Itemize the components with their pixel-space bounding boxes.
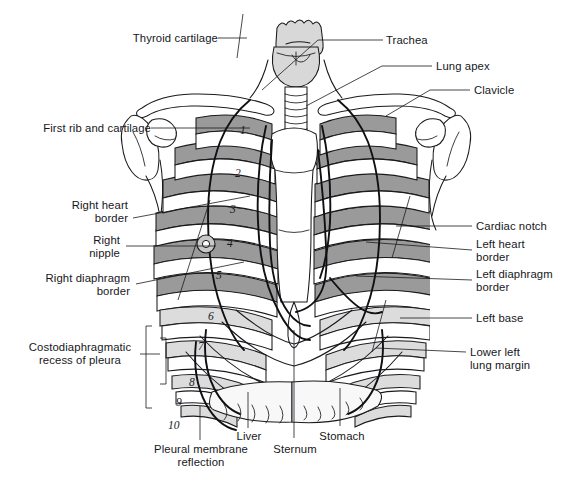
rib-number-9: 9 [176,396,182,408]
label-left-heart-border: Left heart border [476,238,564,263]
label-liver: Liver [228,430,270,443]
rib-number-5: 5 [216,269,222,281]
label-right-diaphragm-border: Right diaphragm border [8,272,130,297]
label-pleural-membrane-reflection: Pleural membrane reflection [140,443,262,468]
rib-number-8: 8 [189,376,195,388]
label-left-diaphragm-border: Left diaphragm border [476,268,564,293]
rib-number-3: 3 [230,203,236,215]
right-nipple-marker [197,235,215,253]
label-trachea: Trachea [386,34,476,47]
label-right-heart-border: Right heart border [18,199,128,224]
label-lower-left-lung-margin: Lower left lung margin [470,346,562,371]
label-lung-apex: Lung apex [436,60,536,73]
rib-number-7: 7 [198,340,204,352]
rib-number-4: 4 [227,237,233,249]
label-stomach: Stomach [313,430,371,443]
rib-number-1: 1 [240,124,246,136]
label-first-rib-and-cartilage: First rib and cartilage [6,122,151,135]
label-right-nipple: Right nipple [28,234,120,259]
label-left-base: Left base [476,312,556,325]
label-thyroid-cartilage: Thyroid cartilage [100,32,218,45]
label-cardiac-notch: Cardiac notch [476,220,564,233]
label-costodiaphragmatic-recess: Costodiaphragmatic recess of pleura [20,341,140,366]
rib-number-6: 6 [208,310,214,322]
rib-number-10: 10 [168,419,180,431]
label-clavicle: Clavicle [474,84,558,97]
rib-number-2: 2 [235,167,241,179]
label-sternum: Sternum [266,443,324,456]
